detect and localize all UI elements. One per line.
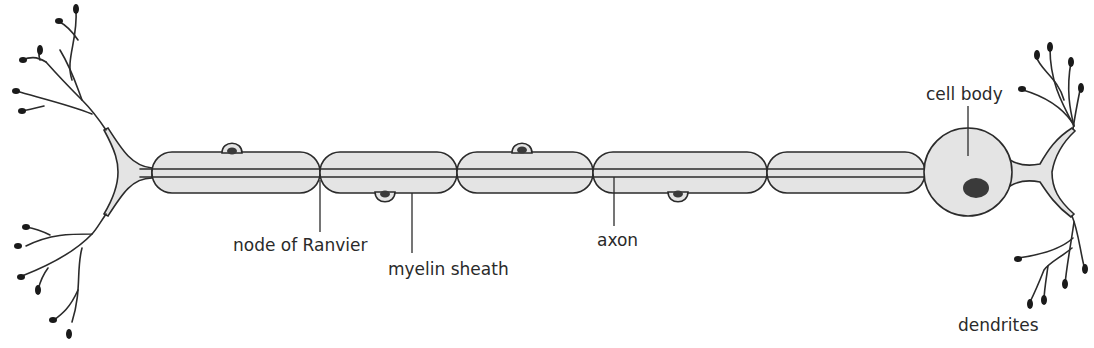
- myelin-segment-2: [320, 152, 457, 193]
- label-cell-body: cell body: [926, 84, 1003, 104]
- nucleus: [963, 178, 989, 198]
- myelin-sheath: [152, 152, 925, 193]
- neuron-diagram: node of Ranvier myelin sheath axon cell …: [0, 0, 1094, 348]
- myelin-segment-1: [152, 152, 320, 193]
- label-dendrites: dendrites: [958, 315, 1039, 335]
- myelin-segment-3: [457, 152, 593, 193]
- myelin-segment-4: [593, 152, 767, 193]
- axon-terminal-left: [12, 4, 152, 339]
- label-node-of-ranvier: node of Ranvier: [233, 235, 367, 255]
- label-axon: axon: [597, 230, 638, 250]
- myelin-segment-5: [767, 152, 925, 193]
- label-myelin-sheath: myelin sheath: [388, 259, 509, 279]
- cell-body: [924, 128, 1075, 217]
